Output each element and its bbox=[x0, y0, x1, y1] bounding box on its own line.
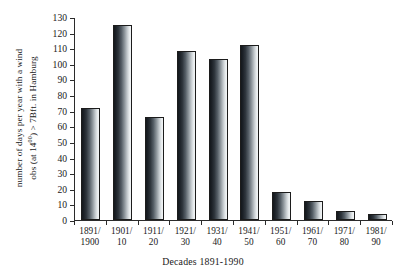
y-axis-tick-label: 100 bbox=[41, 60, 67, 70]
x-axis-tick-label: 1951/60 bbox=[265, 226, 297, 248]
y-axis-tick-label: 80 bbox=[41, 91, 67, 101]
x-axis-tick-label: 1931/40 bbox=[201, 226, 233, 248]
x-axis-tick bbox=[201, 221, 202, 225]
x-axis-tick-label: 1891/1900 bbox=[74, 226, 106, 248]
y-axis-tick-label: 40 bbox=[41, 154, 67, 164]
x-axis-tick bbox=[297, 221, 298, 225]
y-axis-title-line-2: obs (at 1400) > 7Bft. in Hamburg bbox=[29, 56, 38, 179]
y-axis-title-line-2-prefix: obs (at 14 bbox=[28, 142, 38, 179]
plot-area: 0102030405060708090100110120130 1891/190… bbox=[74, 18, 392, 221]
x-axis-title: Decades 1891-1990 bbox=[0, 256, 406, 267]
y-axis-tick bbox=[70, 159, 74, 160]
bar bbox=[209, 59, 228, 220]
bar bbox=[368, 214, 387, 220]
bar bbox=[304, 201, 323, 220]
x-axis-tick-label: 1911/20 bbox=[138, 226, 170, 248]
y-axis-tick bbox=[70, 174, 74, 175]
x-axis-tick-label: 1961/70 bbox=[297, 226, 329, 248]
y-axis-title-line-1: number of days per year with a wind bbox=[15, 49, 24, 187]
y-axis-tick-label: 110 bbox=[41, 44, 67, 54]
x-axis-tick bbox=[74, 221, 75, 225]
x-axis-tick-label: 1971/80 bbox=[328, 226, 360, 248]
y-axis-tick-label: 30 bbox=[41, 169, 67, 179]
y-axis-tick-label: 0 bbox=[41, 216, 67, 226]
bar bbox=[113, 25, 132, 220]
bar-slot bbox=[209, 18, 228, 220]
y-axis-tick-label: 20 bbox=[41, 185, 67, 195]
x-axis-tick bbox=[392, 221, 393, 225]
x-axis-tick bbox=[106, 221, 107, 225]
x-axis-tick-label: 1901/10 bbox=[106, 226, 138, 248]
bar bbox=[240, 45, 259, 220]
y-axis-tick bbox=[70, 190, 74, 191]
y-axis-tick-label: 60 bbox=[41, 123, 67, 133]
bar-slot bbox=[113, 18, 132, 220]
y-axis-tick bbox=[70, 49, 74, 50]
x-axis-tick bbox=[169, 221, 170, 225]
x-axis-tick bbox=[265, 221, 266, 225]
x-axis-tick bbox=[138, 221, 139, 225]
bar-slot bbox=[272, 18, 291, 220]
y-axis-tick-label: 50 bbox=[41, 138, 67, 148]
x-axis-tick-label: 1981/90 bbox=[360, 226, 392, 248]
y-axis-tick bbox=[70, 205, 74, 206]
y-axis-tick-label: 10 bbox=[41, 201, 67, 211]
y-axis-tick bbox=[70, 34, 74, 35]
y-axis-title-superscript: 00 bbox=[26, 136, 33, 142]
x-axis-tick-label: 1941/50 bbox=[233, 226, 265, 248]
y-axis-tick-label: 70 bbox=[41, 107, 67, 117]
bar bbox=[145, 117, 164, 220]
bar-series bbox=[75, 18, 392, 220]
bar bbox=[177, 51, 196, 220]
y-axis-tick bbox=[70, 143, 74, 144]
y-axis-tick bbox=[70, 18, 74, 19]
bar bbox=[272, 192, 291, 220]
x-axis-tick bbox=[233, 221, 234, 225]
x-axis-tick bbox=[360, 221, 361, 225]
y-axis-title-line-2-suffix: ) > 7Bft. in Hamburg bbox=[28, 56, 38, 136]
bar-slot bbox=[304, 18, 323, 220]
bar-slot bbox=[177, 18, 196, 220]
bar-slot bbox=[145, 18, 164, 220]
bar-slot bbox=[368, 18, 387, 220]
bar bbox=[336, 211, 355, 220]
x-axis-tick bbox=[328, 221, 329, 225]
y-axis-tick-label: 120 bbox=[41, 29, 67, 39]
bar-slot bbox=[336, 18, 355, 220]
y-axis-tick bbox=[70, 96, 74, 97]
bar bbox=[81, 108, 100, 220]
bar-slot bbox=[240, 18, 259, 220]
y-axis-tick bbox=[70, 65, 74, 66]
y-axis-tick-label: 130 bbox=[41, 13, 67, 23]
y-axis-tick-label: 90 bbox=[41, 76, 67, 86]
y-axis-tick bbox=[70, 80, 74, 81]
y-axis-tick bbox=[70, 112, 74, 113]
bar-chart: number of days per year with a wind obs … bbox=[0, 0, 406, 279]
bar-slot bbox=[81, 18, 100, 220]
x-axis-tick-label: 1921/30 bbox=[169, 226, 201, 248]
y-axis-tick bbox=[70, 127, 74, 128]
